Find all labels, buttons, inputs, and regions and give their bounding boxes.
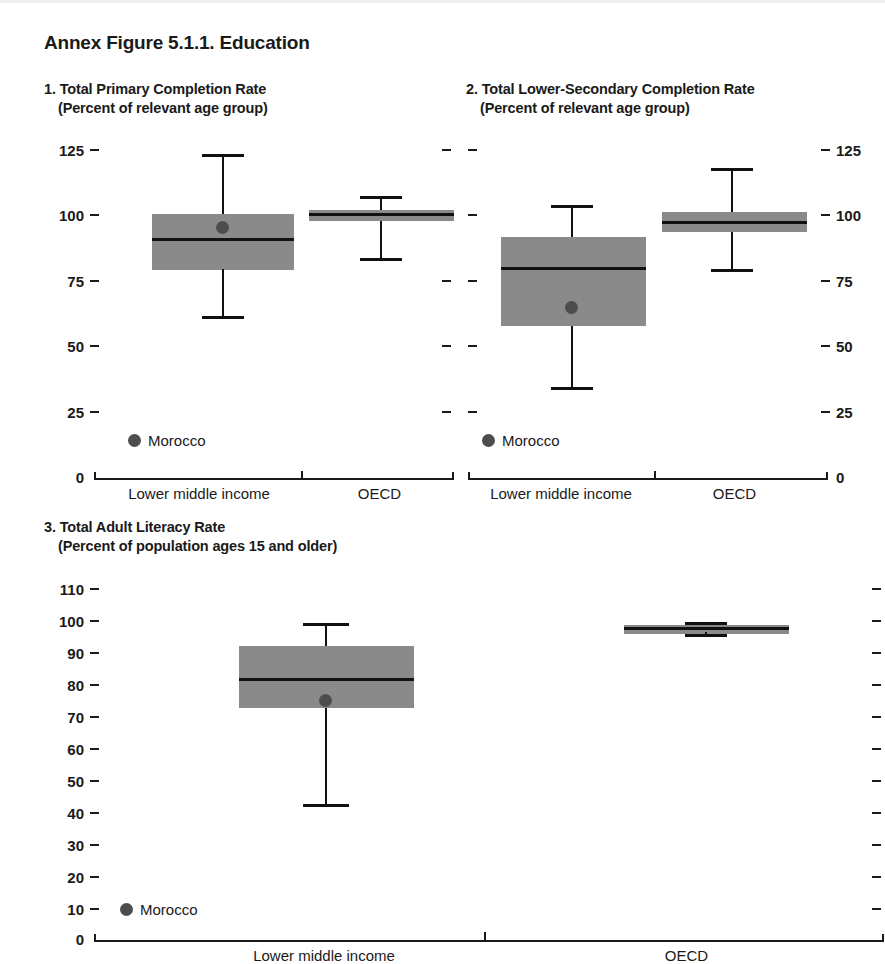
panel-1-right-dash-50 xyxy=(442,345,451,347)
panel-2-xaxis-mid-tick xyxy=(654,471,656,480)
panel-2-box-oecd-whisker-lower xyxy=(731,232,733,271)
panel-1-category-oecd: OECD xyxy=(307,485,452,502)
panel-3-ytick-dash-80 xyxy=(90,684,99,686)
panel-3-legend: Morocco xyxy=(120,901,198,918)
panel-2-left-dash-100 xyxy=(468,214,477,216)
panel-3-box-lmi-whisker-lower xyxy=(325,708,327,806)
panel-2-box-oecd-whisker-upper xyxy=(731,169,733,214)
panel-3-ytick-20: 20 xyxy=(38,870,84,885)
panel-3-ytick-60: 60 xyxy=(38,742,84,757)
panel-1-right-dash-125 xyxy=(442,149,451,151)
panel-2-xaxis xyxy=(468,478,828,480)
panel-1-box-oecd-median xyxy=(309,213,454,216)
panel-3-ytick-dash-70 xyxy=(90,716,99,718)
panel-3-right-dash-60 xyxy=(872,748,881,750)
panel-3-box-lmi-whisker-upper xyxy=(325,624,327,647)
panel-2-plot: 125 100 75 50 25 0 xyxy=(466,80,876,510)
panel-1-box-lmi-whisker-upper xyxy=(222,155,224,215)
panel-3-right-dash-100 xyxy=(872,620,881,622)
panel-3-right-dash-80 xyxy=(872,684,881,686)
panel-2-box-oecd-cap-lower xyxy=(711,269,753,272)
panel-1-box-lmi-whisker-lower xyxy=(222,269,224,318)
panel-2-left-dash-75 xyxy=(468,280,477,282)
panel-2-box-lmi-whisker-upper xyxy=(571,206,573,237)
panel-1-ytick-50: 50 xyxy=(40,339,84,354)
panel-3-ytick-10: 10 xyxy=(38,902,84,917)
legend-morocco-label: Morocco xyxy=(148,432,206,449)
panel-2-left-dash-125 xyxy=(468,149,477,151)
panel-3-category-oecd: OECD xyxy=(614,947,759,964)
panel-1-xaxis xyxy=(94,478,454,480)
panel-1-morocco-point xyxy=(216,221,229,234)
panel-1-ytick-100: 100 xyxy=(40,208,84,223)
panel-2-ytick-0: 0 xyxy=(836,470,882,485)
panel-3-ytick-dash-40 xyxy=(90,812,99,814)
panel-3-xaxis-right-end xyxy=(882,934,884,941)
panel-2-legend: Morocco xyxy=(482,432,560,449)
panel-2-ytick-25: 25 xyxy=(836,405,882,420)
panel-2-box-oecd-cap-upper xyxy=(711,168,753,171)
panel-3-box-oecd-cap-lower xyxy=(685,634,727,637)
panel-3-right-dash-10 xyxy=(872,908,881,910)
panel-1-ytick-dash-25 xyxy=(90,411,99,413)
panel-3: 3. Total Adult Literacy Rate (Percent of… xyxy=(44,518,884,953)
panel-1-legend: Morocco xyxy=(128,432,206,449)
panel-1-category-lower-middle-income: Lower middle income xyxy=(104,485,294,502)
legend-morocco-dot xyxy=(120,903,133,916)
panel-2: 2. Total Lower-Secondary Completion Rate… xyxy=(466,80,876,510)
panel-3-ytick-0: 0 xyxy=(38,932,84,947)
panel-2-ytick-dash-50 xyxy=(821,345,830,347)
panel-3-morocco-point xyxy=(319,694,332,707)
figure-title: Annex Figure 5.1.1. Education xyxy=(44,32,310,54)
panel-1-box-oecd-whisker-lower xyxy=(380,221,382,260)
panel-3-ytick-90: 90 xyxy=(38,646,84,661)
panel-3-ytick-dash-20 xyxy=(90,876,99,878)
panel-3-right-dash-40 xyxy=(872,812,881,814)
panel-3-xaxis-mid-tick xyxy=(484,932,486,941)
panel-1-ytick-25: 25 xyxy=(40,405,84,420)
panel-2-category-lower-middle-income: Lower middle income xyxy=(466,485,656,502)
panel-3-plot: 110 100 90 80 70 60 50 40 30 20 10 0 xyxy=(44,518,884,953)
panel-2-box-lmi-median xyxy=(501,267,646,270)
panel-2-ytick-125: 125 xyxy=(836,143,882,158)
panel-3-right-dash-110 xyxy=(872,588,881,590)
panel-3-ytick-dash-110 xyxy=(90,588,99,590)
panel-3-right-dash-50 xyxy=(872,780,881,782)
legend-morocco-dot xyxy=(482,434,495,447)
panel-1: 1. Total Primary Completion Rate (Percen… xyxy=(44,80,454,510)
panel-1-xaxis-left-end xyxy=(94,472,96,479)
panel-3-ytick-50: 50 xyxy=(38,774,84,789)
panel-1-ytick-dash-100 xyxy=(90,214,99,216)
panel-2-morocco-point xyxy=(565,301,578,314)
panel-2-left-dash-50 xyxy=(468,345,477,347)
panel-3-ytick-30: 30 xyxy=(38,838,84,853)
panel-2-ytick-dash-100 xyxy=(821,214,830,216)
panel-1-ytick-dash-50 xyxy=(90,345,99,347)
panel-2-box-oecd-median xyxy=(662,221,807,224)
scan-edge xyxy=(0,0,885,3)
panel-1-xaxis-right-end xyxy=(452,472,454,479)
panel-3-ytick-40: 40 xyxy=(38,806,84,821)
panel-3-ytick-dash-90 xyxy=(90,652,99,654)
panel-3-ytick-dash-100 xyxy=(90,620,99,622)
panel-3-ytick-dash-60 xyxy=(90,748,99,750)
panel-2-ytick-dash-125 xyxy=(821,149,830,151)
panel-1-ytick-0: 0 xyxy=(40,470,84,485)
panel-2-ytick-75: 75 xyxy=(836,274,882,289)
panel-1-right-dash-25 xyxy=(442,411,451,413)
panel-2-ytick-dash-75 xyxy=(821,280,830,282)
panel-1-box-lmi-cap-lower xyxy=(202,316,244,319)
panel-2-box-lmi-cap-upper xyxy=(551,205,593,208)
panel-3-box-oecd-median xyxy=(624,627,789,630)
panel-3-ytick-dash-30 xyxy=(90,844,99,846)
panel-2-ytick-dash-25 xyxy=(821,411,830,413)
panel-3-box-lmi-median xyxy=(239,678,414,681)
panel-2-box-lmi-cap-lower xyxy=(551,387,593,390)
panel-2-category-oecd: OECD xyxy=(662,485,807,502)
panel-1-ytick-dash-125 xyxy=(90,149,99,151)
panel-2-xaxis-left-end xyxy=(468,472,470,479)
panel-1-xaxis-mid-tick xyxy=(301,471,303,480)
panel-3-right-dash-30 xyxy=(872,844,881,846)
panel-1-plot: 125 100 75 50 25 0 xyxy=(44,80,454,510)
